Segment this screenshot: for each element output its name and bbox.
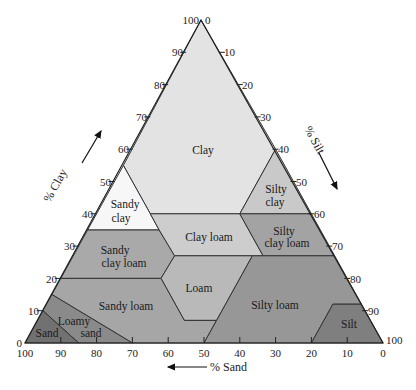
tick-clay-10: 10 [28, 305, 40, 317]
tick-sand-100: 100 [17, 347, 34, 359]
tick-sand-50: 50 [199, 347, 211, 359]
tick-sand-20: 20 [306, 347, 318, 359]
label-clay: Clay [192, 144, 214, 157]
tick-sand-90: 90 [55, 347, 67, 359]
tick-silt-100: 100 [386, 334, 403, 346]
label-silty-clay-1: Silty [265, 183, 287, 196]
tick-silt-10: 10 [224, 46, 236, 58]
tick-sand-60: 60 [163, 347, 175, 359]
tick-clay-80: 80 [154, 79, 166, 91]
tick-silt-0: 0 [205, 14, 211, 26]
tick-sand-80: 80 [91, 347, 103, 359]
label-silt: Silt [341, 318, 358, 330]
label-sandy-clay-loam-1: Sandy [101, 244, 130, 257]
tick-clay-60: 60 [118, 143, 130, 155]
tick-clay-100: 100 [183, 14, 200, 26]
tick-clay-40: 40 [82, 208, 94, 220]
label-silty-clay-2: clay [265, 196, 284, 209]
tick-clay-30: 30 [64, 240, 76, 252]
clay-axis-title: % Clay [40, 131, 101, 204]
tick-silt-90: 90 [368, 305, 380, 317]
clay-arrow-icon [82, 131, 101, 163]
tick-sand-10: 10 [342, 347, 354, 359]
soil-texture-triangle: 0 10 20 30 40 50 60 70 80 90 100 0 10 20… [0, 0, 416, 390]
tick-sand-40: 40 [234, 347, 246, 359]
silt-arrow-icon [319, 153, 337, 189]
clay-axis-label: % Clay [40, 166, 70, 204]
tick-clay-70: 70 [136, 111, 148, 123]
label-loam: Loam [186, 282, 213, 294]
label-sandy-loam: Sandy loam [99, 300, 154, 313]
tick-clay-50: 50 [100, 176, 112, 188]
label-sand: Sand [36, 327, 59, 339]
silt-axis-label: % Silt [301, 124, 328, 157]
tick-silt-30: 30 [260, 111, 272, 123]
tick-clay-20: 20 [46, 273, 58, 285]
tick-silt-40: 40 [278, 143, 290, 155]
label-sandy-clay-2: clay [111, 212, 130, 225]
label-sandy-clay-loam-2: clay loam [101, 257, 146, 270]
tick-silt-80: 80 [350, 273, 362, 285]
tick-silt-60: 60 [314, 208, 326, 220]
label-clay-loam: Clay loam [185, 231, 233, 244]
tick-silt-50: 50 [296, 176, 308, 188]
tick-silt-70: 70 [332, 240, 344, 252]
tick-sand-0: 0 [380, 347, 386, 359]
regions [25, 20, 383, 343]
label-loamy-sand-2: sand [80, 327, 101, 339]
tick-clay-90: 90 [172, 46, 184, 58]
sand-tick-labels: 100 90 80 70 60 50 40 30 20 10 0 [17, 347, 387, 359]
label-sandy-clay-1: Sandy [111, 198, 140, 211]
sand-axis-label: % Sand [210, 360, 247, 374]
label-silty-clay-loam-2: clay loam [264, 237, 309, 250]
sand-axis-title: % Sand [168, 360, 247, 374]
tick-sand-70: 70 [127, 347, 139, 359]
tick-sand-30: 30 [270, 347, 282, 359]
label-silty-loam: Silty loam [251, 299, 299, 312]
tick-silt-20: 20 [242, 79, 254, 91]
